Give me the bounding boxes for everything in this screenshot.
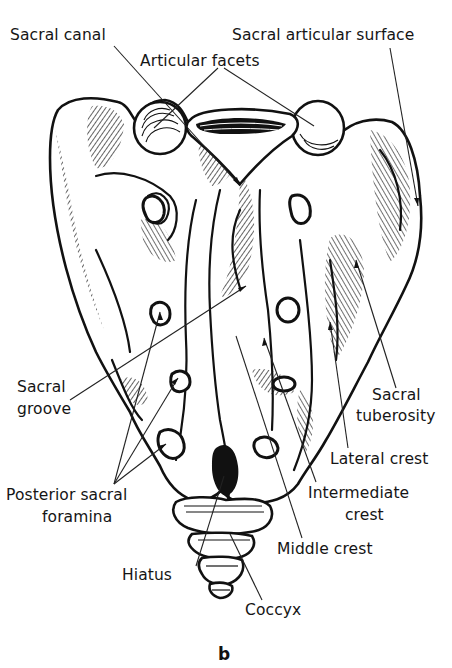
label-sacral-groove-line2: groove: [17, 400, 71, 418]
label-posterior-sacral-foramina-line2: foramina: [42, 508, 112, 526]
label-middle-crest: Middle crest: [277, 540, 373, 558]
label-coccyx: Coccyx: [245, 601, 301, 619]
sacrum-illustration: [0, 0, 452, 668]
label-intermediate-crest-line2: crest: [345, 506, 384, 524]
label-posterior-sacral-foramina-line1: Posterior sacral: [6, 486, 127, 504]
label-intermediate-crest-line1: Intermediate: [308, 484, 409, 502]
figure-panel-letter: b: [218, 644, 230, 664]
label-sacral-groove-line1: Sacral: [17, 378, 66, 396]
label-sacral-tuberosity-line1: Sacral: [372, 386, 421, 404]
label-lateral-crest: Lateral crest: [330, 450, 428, 468]
sacrum-diagram: Sacral canal Sacral articular surface Ar…: [0, 0, 452, 668]
label-hiatus: Hiatus: [122, 566, 172, 584]
label-sacral-tuberosity-line2: tuberosity: [356, 407, 435, 425]
label-sacral-canal: Sacral canal: [10, 26, 106, 44]
label-articular-facets: Articular facets: [140, 52, 260, 70]
label-sacral-articular-surface: Sacral articular surface: [232, 26, 414, 44]
